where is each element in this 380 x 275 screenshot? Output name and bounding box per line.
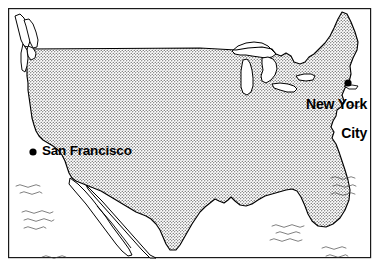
label-new-york-city-line-2: City xyxy=(291,126,367,140)
label-new-york-city: New York City xyxy=(291,83,367,169)
label-san-francisco: San Francisco xyxy=(42,144,132,158)
marker-san-francisco[interactable] xyxy=(29,148,36,155)
us-map-figure: San Francisco New York City xyxy=(0,0,380,275)
label-new-york-city-line-1: New York xyxy=(306,96,367,112)
lake-ontario xyxy=(296,74,315,81)
